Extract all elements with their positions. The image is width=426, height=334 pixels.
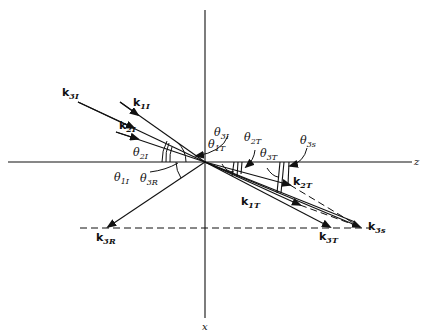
x-axis-label: x bbox=[202, 321, 208, 332]
theta2T-pointer bbox=[246, 150, 255, 167]
k2I-label: k2I bbox=[119, 119, 136, 134]
k3I-label: k3I bbox=[62, 86, 79, 101]
theta3s-label: θ3s bbox=[300, 134, 316, 149]
transmitted-k3T-ray bbox=[205, 162, 330, 227]
theta3R-label: θ3R bbox=[140, 172, 158, 187]
wave-vector-diagram: z x bbox=[0, 0, 426, 334]
transmitted-k3s-ray bbox=[205, 162, 360, 227]
k3T-label: k3T bbox=[319, 230, 339, 245]
theta3I-label: θ3I bbox=[214, 126, 230, 141]
k1I-label: k1I bbox=[133, 96, 150, 111]
k1T-label: k1T bbox=[241, 195, 261, 210]
dashed-k2T-to-k3s bbox=[290, 185, 360, 227]
z-axis-label: z bbox=[413, 156, 420, 167]
k3s-label: k3s bbox=[368, 220, 386, 235]
k3R-label: k3R bbox=[96, 231, 116, 246]
theta2I-label: θ2I bbox=[133, 146, 149, 161]
theta1I-pointer bbox=[150, 163, 178, 172]
incident-k2I-ray bbox=[116, 132, 205, 162]
k2T-label: k2T bbox=[293, 175, 313, 190]
theta1I-label: θ1I bbox=[114, 171, 130, 186]
theta3T-pointer bbox=[267, 168, 278, 177]
reflected-k3R-ray bbox=[108, 162, 205, 227]
theta2T-label: θ2T bbox=[244, 131, 262, 146]
theta3s-pointer bbox=[290, 148, 307, 166]
theta3T-label: θ3T bbox=[260, 147, 278, 162]
